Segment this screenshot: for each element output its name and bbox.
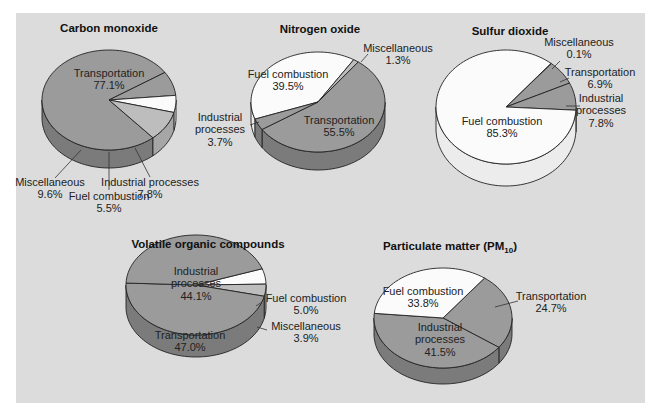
- slice-value: 41.5%: [424, 346, 455, 358]
- chart-title: Nitrogen oxide: [280, 23, 361, 35]
- chart-title: Particulate matter (PM10): [383, 240, 517, 255]
- slice-category: Fuel combustion: [69, 190, 150, 202]
- chart-title-main: Particulate matter (PM: [383, 240, 504, 252]
- slice-category: Transportation: [565, 66, 636, 78]
- slice-category: Industrial: [174, 265, 219, 277]
- slice-label-miscellaneous: Miscellaneous1.3%: [363, 42, 433, 67]
- slice-value: 7.8%: [588, 117, 613, 129]
- slice-category: Fuel combustion: [266, 292, 347, 304]
- slice-category: Industrial: [418, 321, 463, 333]
- pie-chart-nitrogen-oxide: Nitrogen oxideFuel combustion39.5%Miscel…: [195, 23, 433, 170]
- slice-category: Industrial processes: [101, 176, 199, 188]
- chart-title: Sulfur dioxide: [472, 25, 549, 37]
- slice-category: Miscellaneous: [544, 36, 614, 48]
- slice-category: Industrial: [579, 92, 624, 104]
- slice-category: Miscellaneous: [271, 320, 341, 332]
- slice-value: 0.1%: [566, 48, 591, 60]
- slice-category: processes: [195, 123, 246, 135]
- slice-category: Transportation: [74, 67, 145, 79]
- pie-chart-sulfur-dioxide: Sulfur dioxideMiscellaneous0.1%Transport…: [436, 25, 635, 186]
- slice-category: Industrial: [198, 111, 243, 123]
- slice-value: 3.7%: [207, 136, 232, 148]
- slice-value: 5.5%: [96, 202, 121, 214]
- slice-value: 24.7%: [535, 302, 566, 314]
- slice-category: Fuel combustion: [248, 68, 329, 80]
- slice-value: 44.1%: [180, 290, 211, 302]
- slice-category: Miscellaneous: [363, 42, 433, 54]
- slice-category: processes: [415, 333, 466, 345]
- slice-value: 6.9%: [587, 78, 612, 90]
- slice-value: 5.0%: [293, 304, 318, 316]
- pie-chart-volatile-organic-compounds: Volatile organic compoundsFuel combustio…: [126, 235, 346, 357]
- slice-category: processes: [576, 104, 627, 116]
- chart-title: Carbon monoxide: [60, 22, 158, 34]
- slice-label-fuel-combustion: Fuel combustion5.5%: [69, 190, 150, 215]
- slice-category: Fuel combustion: [462, 115, 543, 127]
- slice-label-industrial-processes: Industrialprocesses7.8%: [576, 92, 627, 129]
- slice-category: processes: [171, 277, 222, 289]
- leader-line: [361, 54, 368, 62]
- slice-category: Fuel combustion: [383, 285, 464, 297]
- slice-value: 47.0%: [174, 341, 205, 353]
- pie-chart-carbon-monoxide: Carbon monoxideTransportation77.1%Indust…: [15, 22, 199, 214]
- slice-category: Transportation: [516, 290, 587, 302]
- slice-label-industrial-processes: Industrialprocesses3.7%: [195, 111, 246, 148]
- slice-value: 85.3%: [486, 127, 517, 139]
- slice-category: Miscellaneous: [15, 176, 85, 188]
- chart-title-end: ): [513, 240, 517, 252]
- slice-value: 1.3%: [385, 54, 410, 66]
- slice-label-fuel-combustion: Fuel combustion5.0%: [266, 292, 347, 317]
- slice-label-transportation: Transportation24.7%: [516, 290, 587, 315]
- slice-value: 3.9%: [293, 332, 318, 344]
- slice-value: 39.5%: [272, 80, 303, 92]
- pie-chart-particulate-matter-pm10: Particulate matter (PM10)Transportation2…: [374, 240, 586, 384]
- slice-value: 55.5%: [323, 126, 354, 138]
- slice-label-transportation: Transportation6.9%: [565, 66, 636, 91]
- slice-category: Transportation: [304, 114, 375, 126]
- slice-value: 77.1%: [93, 79, 124, 91]
- slice-value: 9.6%: [37, 188, 62, 200]
- slice-category: Transportation: [155, 329, 226, 341]
- chart-title: Volatile organic compounds: [131, 238, 284, 250]
- pie-charts: Carbon monoxideTransportation77.1%Indust…: [0, 0, 658, 415]
- slice-value: 33.8%: [407, 297, 438, 309]
- slice-label-miscellaneous: Miscellaneous0.1%: [544, 36, 614, 61]
- slice-label-miscellaneous: Miscellaneous3.9%: [271, 320, 341, 345]
